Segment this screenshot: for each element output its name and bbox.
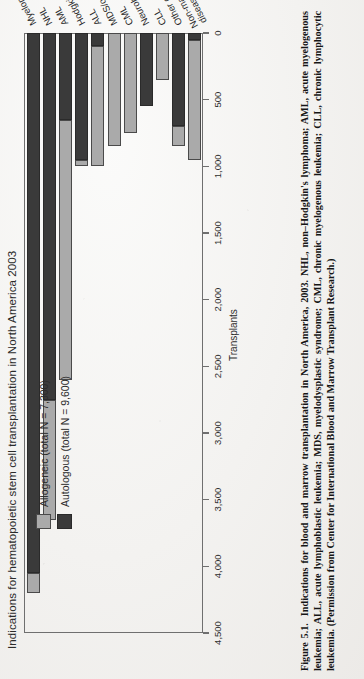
axis-tick <box>203 299 209 300</box>
axis-tick-label: 4,000 <box>212 554 223 578</box>
legend-swatch-autologous <box>57 514 72 529</box>
bar-segment-allogeneic <box>59 120 72 380</box>
legend-item-allogeneic: Allogeneic (total N = 7,300) <box>36 376 51 529</box>
figure-number: Figure 5.1. <box>299 623 310 671</box>
bar-row <box>91 0 104 679</box>
axis-tick-label: 2,000 <box>212 288 223 312</box>
axis-tick-label: 3,500 <box>212 488 223 512</box>
axis-tick <box>203 366 209 367</box>
axis-tick <box>203 99 209 100</box>
axis-tick-label: 4,500 <box>212 621 223 645</box>
axis-tick-label: 1,000 <box>212 154 223 178</box>
bar-segment-autologous <box>140 33 153 106</box>
axis-tick-label: 3,000 <box>212 421 223 445</box>
bar-segment-autologous <box>75 33 88 160</box>
axis-tick-label: 500 <box>212 92 223 108</box>
bar-row <box>43 0 56 679</box>
bar-segment-allogeneic <box>75 160 88 167</box>
bar-row <box>59 0 72 679</box>
axis-tick-label: 2,500 <box>212 354 223 378</box>
bar-row <box>156 0 169 679</box>
bar-segment-allogeneic <box>27 573 40 593</box>
legend-label-autologous: Autologous (total N = 9,600) <box>59 376 71 507</box>
value-axis-line <box>202 33 203 633</box>
axis-tick <box>203 566 209 567</box>
figure-image: Indications for hematopoietic stem cell … <box>0 0 300 679</box>
bar-segment-allogeneic <box>124 33 137 133</box>
axis-tick-label: 1,500 <box>212 221 223 245</box>
axis-tick <box>203 632 209 633</box>
scanned-page: Indications for hematopoietic stem cell … <box>0 0 364 679</box>
bar-segment-autologous <box>91 33 104 46</box>
figure-caption: Figure 5.1.Indications for blood and mar… <box>298 11 337 671</box>
bar-row <box>75 0 88 679</box>
bar-segment-autologous <box>43 33 56 400</box>
bar-row <box>188 0 201 679</box>
axis-tick <box>203 32 209 33</box>
bar-segment-autologous <box>188 33 201 40</box>
figure-caption-block: Figure 5.1.Indications for blood and mar… <box>296 0 364 679</box>
bar-segment-autologous <box>172 33 185 126</box>
bar-segment-allogeneic <box>156 33 169 80</box>
figure-caption-text: Indications for blood and marrow transpl… <box>299 11 336 671</box>
legend-swatch-allogeneic <box>36 514 51 529</box>
bar-segment-allogeneic <box>188 40 201 160</box>
axis-tick <box>203 499 209 500</box>
bar-row <box>27 0 40 679</box>
bar-row <box>140 0 153 679</box>
axis-tick <box>203 166 209 167</box>
legend-label-allogeneic: Allogeneic (total N = 7,300) <box>38 380 50 507</box>
bar-segment-allogeneic <box>91 46 104 166</box>
chart-title: Indications for hematopoietic stem cell … <box>6 251 18 649</box>
bar-row <box>172 0 185 679</box>
bar-row <box>108 0 121 679</box>
bar-segment-allogeneic <box>108 33 121 146</box>
axis-tick <box>203 432 209 433</box>
bar-chart: Indications for hematopoietic stem cell … <box>0 0 300 679</box>
legend-item-autologous: Autologous (total N = 9,600) <box>57 376 72 529</box>
bar-row <box>124 0 137 679</box>
axis-tick-label: 0 <box>212 30 223 35</box>
chart-legend: Allogeneic (total N = 7,300) Autologous … <box>36 376 78 529</box>
axis-title-transplants: Transplants <box>228 309 239 361</box>
bar-segment-allogeneic <box>172 126 185 146</box>
axis-tick <box>203 232 209 233</box>
bar-segment-autologous <box>59 33 72 120</box>
